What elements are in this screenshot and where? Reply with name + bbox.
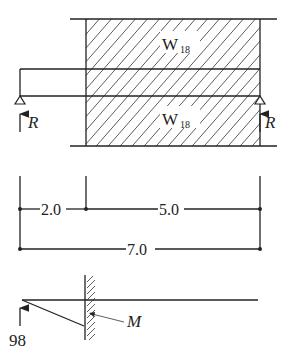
svg-text:W: W bbox=[162, 110, 179, 129]
svg-text:18: 18 bbox=[180, 119, 190, 130]
dimension-right-label: 5.0 bbox=[159, 201, 179, 218]
dimension-total-label: 7.0 bbox=[127, 241, 147, 258]
left-reaction-label: R bbox=[27, 113, 39, 132]
moment-line bbox=[22, 300, 84, 326]
left-support-icon bbox=[15, 96, 25, 104]
force-value-label: 98 bbox=[9, 331, 26, 350]
svg-text:W: W bbox=[162, 35, 179, 54]
dimension-left-label: 2.0 bbox=[41, 201, 61, 218]
right-reaction-label: R bbox=[264, 113, 276, 132]
free-body-diagram bbox=[20, 272, 258, 344]
moment-pointer bbox=[92, 314, 124, 322]
moment-label: M bbox=[126, 312, 142, 331]
load-region bbox=[0, 0, 285, 160]
lower-load-label: W 18 bbox=[160, 106, 200, 130]
moment-pointer-arrow-icon bbox=[89, 312, 95, 317]
upper-load-label: W 18 bbox=[160, 31, 200, 55]
beam-diagram: R R W 18 W 18 2.0 5.0 7.0 bbox=[0, 0, 285, 356]
svg-text:18: 18 bbox=[180, 44, 190, 55]
wall-hatch bbox=[85, 272, 97, 344]
hatch-pattern bbox=[0, 0, 285, 160]
